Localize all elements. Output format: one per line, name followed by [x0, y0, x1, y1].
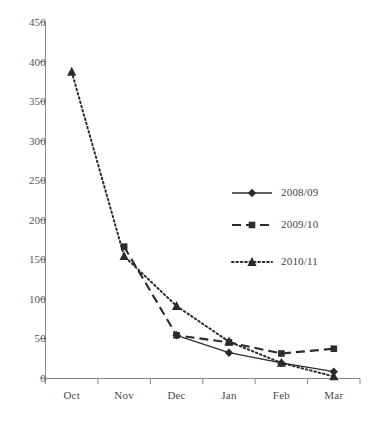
x-axis-ticks — [46, 379, 361, 385]
y-axis-tick-label: 250 — [12, 174, 46, 186]
axis-lines — [46, 22, 361, 379]
legend-marker-2009/10 — [249, 222, 256, 229]
legend-marker-2008/09 — [248, 189, 256, 197]
legend-samples — [232, 189, 272, 266]
y-axis-ticks — [40, 22, 46, 378]
y-axis-tick-label: 200 — [12, 214, 46, 226]
data-point-marker-2009/10 — [278, 350, 285, 357]
data-point-marker-2009/10 — [173, 332, 180, 339]
x-axis-tick-label: Dec — [150, 389, 204, 401]
y-axis-tick-label: 400 — [12, 56, 46, 68]
y-axis-tick-label: 350 — [12, 95, 46, 107]
chart-plot-area — [0, 0, 370, 421]
y-axis-tick-label: 450 — [12, 16, 46, 28]
y-axis-tick-label: 150 — [12, 253, 46, 265]
x-axis-tick-label: Nov — [97, 389, 151, 401]
x-axis-tick-label: Feb — [254, 389, 308, 401]
legend-item-label: 2010/11 — [281, 255, 318, 267]
legend-item-label: 2008/09 — [281, 186, 318, 198]
series-line-2008/09 — [177, 335, 334, 371]
data-point-marker-2009/10 — [330, 345, 337, 352]
y-axis-tick-label: 100 — [12, 293, 46, 305]
x-axis-tick-label: Jan — [202, 389, 256, 401]
x-axis-tick-label: Oct — [45, 389, 99, 401]
data-point-marker-2008/09 — [225, 348, 233, 356]
y-axis-tick-label: 0 — [12, 372, 46, 384]
data-point-marker-2010/11 — [67, 67, 76, 76]
y-axis-tick-label: 300 — [12, 135, 46, 147]
y-axis-tick-label: 50 — [12, 332, 46, 344]
line-chart: 050100150200250300350400450 OctNovDecJan… — [0, 0, 370, 421]
legend-item-label: 2009/10 — [281, 218, 318, 230]
x-axis-tick-label: Mar — [307, 389, 361, 401]
data-point-marker-2009/10 — [121, 243, 128, 250]
